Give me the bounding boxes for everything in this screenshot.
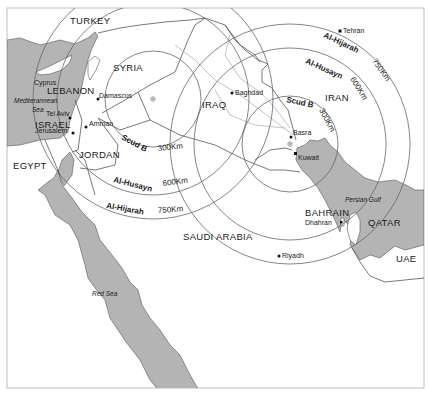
label-jordan: JORDAN — [79, 149, 120, 160]
label-saudi-arabia: SAUDI ARABIA — [183, 231, 253, 242]
label-syria: SYRIA — [113, 62, 143, 73]
label-lebanon: LEBANON — [47, 85, 95, 96]
label-iran: IRAN — [325, 92, 349, 103]
label-amman: Amman — [89, 120, 113, 127]
label-persian-gulf: Persian Gulf — [345, 196, 382, 203]
label-turkey: TURKEY — [70, 15, 111, 26]
label-tel-aviv: Tel Aviv — [46, 110, 70, 117]
label-jerusalem: Jerusalem — [35, 127, 67, 134]
label-qatar: QATAR — [368, 217, 401, 228]
label-mediterranean: Mediterannean — [14, 97, 58, 104]
label-mediterranean-sea: Sea — [32, 106, 44, 113]
label-west-hijarah-km: 750Km — [158, 204, 184, 215]
label-cyprus: Cyprus — [34, 79, 57, 87]
label-tehran: Tehran — [343, 27, 365, 34]
label-baghdad: Baghdad — [235, 89, 263, 97]
label-uae: UAE — [396, 253, 416, 264]
label-riyadh: Riyadh — [282, 252, 304, 260]
label-kuwait: Kuwait — [298, 154, 319, 161]
label-basra: Basra — [293, 129, 311, 136]
label-iraq: IRAQ — [202, 99, 226, 110]
label-red-sea: Red Sea — [92, 290, 118, 297]
label-bahrain: BAHRAIN — [305, 207, 349, 218]
label-egypt: EGYPT — [13, 160, 47, 171]
label-dhahran: Dhahran — [305, 219, 332, 226]
missile-range-map: * * TURKEY SYRIA LEBANON ISRAEL JORDAN E… — [0, 0, 429, 395]
label-damascus: Damascus — [99, 92, 133, 99]
